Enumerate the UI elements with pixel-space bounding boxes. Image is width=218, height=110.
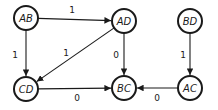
node-label: BC xyxy=(117,83,131,94)
node-label: BD xyxy=(183,16,198,27)
node-label: AC xyxy=(182,83,197,94)
node-ab: AB xyxy=(14,6,38,30)
node-ad: AD xyxy=(112,9,136,33)
node-label: CD xyxy=(19,84,34,95)
edge-label: 1 xyxy=(63,48,69,58)
edge-label: 1 xyxy=(12,50,18,60)
edge-label: 1 xyxy=(69,5,75,15)
node-label: AD xyxy=(116,16,132,27)
node-bd: BD xyxy=(178,9,202,33)
edge-label: 0 xyxy=(74,93,80,103)
edges xyxy=(26,18,190,89)
node-ac: AC xyxy=(178,76,202,100)
node-bc: BC xyxy=(112,76,136,100)
node-label: AB xyxy=(18,13,33,24)
node-cd: CD xyxy=(14,77,38,101)
edge-cd-to-bc xyxy=(38,88,111,89)
edge-label: 0 xyxy=(113,50,119,60)
edge-ad-to-cd xyxy=(37,28,114,82)
edge-label: 1 xyxy=(180,50,186,60)
edge-label: 0 xyxy=(154,93,160,103)
state-graph: 1110100 ABADBDCDBCAC xyxy=(0,0,218,110)
edge-ab-to-ad xyxy=(38,18,111,20)
